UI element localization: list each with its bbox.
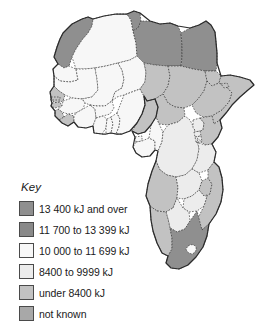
- legend-swatch: [19, 243, 34, 258]
- legend-swatch: [19, 201, 34, 216]
- legend-item: not known: [19, 303, 169, 324]
- legend-item: under 8400 kJ: [19, 282, 169, 303]
- legend-item: 8400 to 9999 kJ: [19, 261, 169, 282]
- legend-label: not known: [39, 308, 86, 320]
- legend-swatch: [19, 285, 34, 300]
- legend-item: 13 400 kJ and over: [19, 198, 169, 219]
- region-gambia: [51, 97, 60, 100]
- region-equatorial-guinea: [135, 136, 142, 142]
- map-legend: Key 13 400 kJ and over 11 700 to 13 399 …: [19, 181, 169, 324]
- legend-label: 8400 to 9999 kJ: [39, 266, 113, 278]
- region-egypt: [181, 21, 217, 71]
- legend-swatch: [19, 306, 34, 321]
- legend-swatch: [19, 222, 34, 237]
- legend-item: 10 000 to 11 699 kJ: [19, 240, 169, 261]
- region-rwanda: [194, 131, 201, 137]
- legend-label: 11 700 to 13 399 kJ: [39, 224, 130, 236]
- legend-label: 10 000 to 11 699 kJ: [39, 245, 130, 257]
- legend-item: 11 700 to 13 399 kJ: [19, 219, 169, 240]
- legend-swatch: [19, 264, 34, 279]
- legend-label: 13 400 kJ and over: [39, 203, 127, 215]
- legend-label: under 8400 kJ: [39, 287, 105, 299]
- legend-title: Key: [21, 181, 169, 194]
